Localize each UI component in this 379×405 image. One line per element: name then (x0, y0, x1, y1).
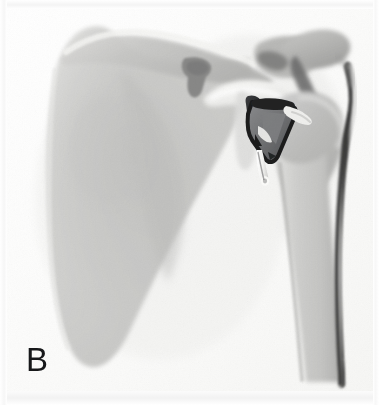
radiograph-figure-panel: B (0, 0, 379, 405)
panel-label: B (26, 343, 48, 376)
shoulder-radiograph-image (0, 0, 379, 405)
film-grain-overlay (0, 0, 379, 405)
